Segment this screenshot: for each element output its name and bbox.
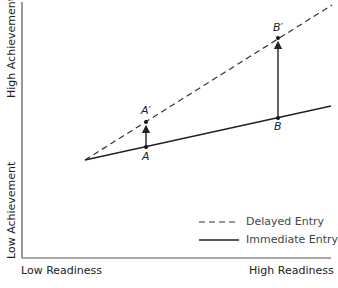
label-a-prime: A′ [141, 104, 151, 117]
point-a [144, 145, 148, 149]
legend-delayed-entry: Delayed Entry [246, 215, 324, 228]
delayed-entry-line [85, 5, 332, 160]
label-b: B [274, 120, 282, 133]
point-b-prime [276, 36, 280, 40]
y-axis-label-high: High Achievement [5, 0, 18, 98]
x-axis-label-high: High Readiness [249, 264, 334, 277]
x-axis-label-low: Low Readiness [21, 264, 102, 277]
legend-immediate-entry: Immediate Entry [246, 233, 338, 246]
y-axis-label-low: Low Achievement [5, 162, 18, 259]
point-a-prime [144, 120, 148, 124]
immediate-entry-line [85, 106, 331, 160]
label-b-prime: B′ [273, 21, 283, 34]
label-a: A [142, 150, 150, 163]
